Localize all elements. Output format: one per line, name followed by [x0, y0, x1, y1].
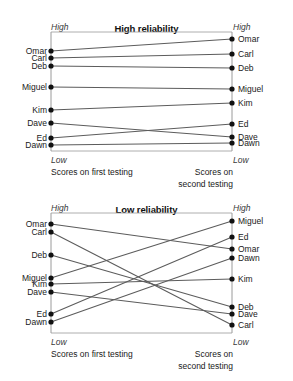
- point-label-right-dawn: Dawn: [238, 139, 260, 148]
- slope-line-miguel: [51, 221, 232, 278]
- point-label-left-deb: Deb: [31, 62, 47, 71]
- point-label-right-ed: Ed: [238, 233, 248, 242]
- data-point-left-carl: [48, 229, 53, 234]
- data-point-left-ed: [48, 311, 53, 316]
- x-axis-label-right-line1-bottom: Scores on: [178, 349, 233, 361]
- point-label-left-kim: Kim: [32, 106, 47, 115]
- data-point-right-dawn: [229, 255, 234, 260]
- data-point-left-kim: [48, 107, 53, 112]
- data-point-left-miguel: [48, 275, 53, 280]
- axis-cap-bottom-left-low-bottom: Low: [51, 337, 67, 347]
- axis-cap-bottom-right-low: Low: [233, 155, 249, 165]
- data-point-left-dawn: [48, 142, 53, 147]
- slopegraph-plot-high-reliability: [0, 0, 293, 190]
- x-axis-label-left-top: Scores on first testing: [51, 167, 133, 179]
- slope-line-omar: [51, 224, 232, 249]
- chart-low-reliability: Low reliability High High Low Low Scores…: [0, 190, 293, 381]
- data-point-right-dave: [229, 311, 234, 316]
- x-axis-label-left-line1-bottom: Scores on: [51, 349, 89, 359]
- x-axis-label-left-bottom: Scores on first testing: [51, 349, 133, 361]
- data-point-left-miguel: [48, 84, 53, 89]
- data-point-right-ed: [229, 121, 234, 126]
- point-label-left-dawn: Dawn: [25, 318, 47, 327]
- point-label-right-kim: Kim: [238, 99, 253, 108]
- data-point-right-miguel: [229, 218, 234, 223]
- data-point-right-omar: [229, 246, 234, 251]
- data-point-right-ed: [229, 234, 234, 239]
- point-label-right-omar: Omar: [238, 35, 259, 44]
- x-axis-label-right-line2-top: second testing: [178, 179, 233, 191]
- slope-line-dave: [51, 123, 232, 137]
- data-point-left-kim: [48, 281, 53, 286]
- point-label-left-carl: Carl: [31, 228, 47, 237]
- point-label-right-carl: Carl: [238, 50, 254, 59]
- slope-line-omar: [51, 39, 232, 51]
- slope-line-kim: [51, 103, 232, 110]
- point-label-left-deb: Deb: [31, 251, 47, 260]
- data-point-left-ed: [48, 135, 53, 140]
- slope-line-kim: [51, 279, 232, 284]
- data-point-right-carl: [229, 322, 234, 327]
- data-point-right-carl: [229, 51, 234, 56]
- data-point-right-kim: [229, 100, 234, 105]
- chart-high-reliability: High reliability High High Low Low Score…: [0, 0, 293, 190]
- slope-line-carl: [51, 54, 232, 58]
- x-axis-label-right-top: Scores on second testing: [178, 167, 233, 190]
- data-point-left-deb: [48, 63, 53, 68]
- point-label-right-deb: Deb: [238, 64, 254, 73]
- slope-line-miguel: [51, 87, 232, 89]
- x-axis-label-right-line1-top: Scores on: [178, 167, 233, 179]
- point-label-right-dawn: Dawn: [238, 254, 260, 263]
- data-point-right-deb: [229, 65, 234, 70]
- data-point-right-kim: [229, 276, 234, 281]
- data-point-left-omar: [48, 221, 53, 226]
- point-label-right-ed: Ed: [238, 120, 248, 129]
- data-point-right-omar: [229, 36, 234, 41]
- point-label-right-miguel: Miguel: [238, 217, 263, 226]
- data-point-left-omar: [48, 48, 53, 53]
- point-label-left-dave: Dave: [27, 288, 47, 297]
- x-axis-label-left-line2-top: first testing: [92, 167, 133, 177]
- x-axis-label-right-bottom: Scores on second testing: [178, 349, 233, 372]
- point-label-right-kim: Kim: [238, 275, 253, 284]
- data-point-right-miguel: [229, 86, 234, 91]
- x-axis-label-left-line1-top: Scores on: [51, 167, 89, 177]
- axis-cap-bottom-left-low: Low: [51, 155, 67, 165]
- point-label-right-miguel: Miguel: [238, 85, 263, 94]
- x-axis-label-left-line2-bottom: first testing: [92, 349, 133, 359]
- data-point-left-dave: [48, 120, 53, 125]
- slope-line-ed: [51, 124, 232, 138]
- point-label-left-dawn: Dawn: [25, 141, 47, 150]
- slope-line-dawn: [51, 143, 232, 145]
- point-label-right-carl: Carl: [238, 321, 254, 330]
- data-point-right-dave: [229, 134, 234, 139]
- point-label-left-miguel: Miguel: [22, 83, 47, 92]
- axis-cap-bottom-right-low-bottom: Low: [233, 337, 249, 347]
- data-point-right-dawn: [229, 140, 234, 145]
- data-point-left-deb: [48, 252, 53, 257]
- x-axis-label-right-line2-bottom: second testing: [178, 361, 233, 373]
- point-label-left-dave: Dave: [27, 119, 47, 128]
- data-point-left-dave: [48, 289, 53, 294]
- slope-line-deb: [51, 66, 232, 68]
- data-point-left-dawn: [48, 319, 53, 324]
- data-point-left-carl: [48, 55, 53, 60]
- point-label-right-dave: Dave: [238, 310, 258, 319]
- slope-line-dawn: [51, 258, 232, 322]
- data-point-right-deb: [229, 304, 234, 309]
